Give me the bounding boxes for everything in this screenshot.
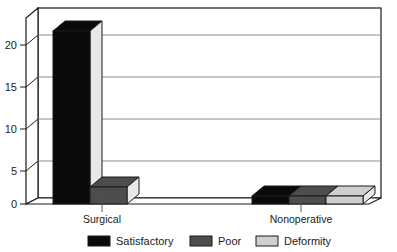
legend-label-poor: Poor <box>218 235 242 247</box>
plot-left-wall <box>26 8 38 204</box>
bar-side-face <box>90 21 102 204</box>
bar-front-face <box>289 196 326 204</box>
bar-surgical-satisfactory <box>53 21 102 204</box>
xtick-label-nonoperative: Nonoperative <box>270 213 333 225</box>
legend-swatch-satisfactory <box>88 236 110 246</box>
ytick-label-20: 20 <box>5 39 17 51</box>
legend-swatch-poor <box>190 236 212 246</box>
chart-legend: Satisfactory Poor Deformity <box>88 235 332 247</box>
legend-swatch-deformity <box>256 236 278 246</box>
ytick-label-10: 10 <box>5 123 17 135</box>
legend-item-deformity[interactable]: Deformity <box>256 235 332 247</box>
legend-label-deformity: Deformity <box>284 235 332 247</box>
ytick-label-15: 15 <box>5 81 17 93</box>
bar-front-face <box>326 196 363 204</box>
bar-front-face <box>53 31 90 204</box>
y-axis-labels: 0 5 10 15 20 <box>5 39 17 210</box>
legend-item-satisfactory[interactable]: Satisfactory <box>88 235 174 247</box>
y-axis-ticks <box>20 45 26 204</box>
legend-item-poor[interactable]: Poor <box>190 235 242 247</box>
chart-canvas: 0 5 10 15 20 <box>0 0 397 252</box>
bar-surgical-poor <box>90 177 139 204</box>
xtick-label-surgical: Surgical <box>83 213 121 225</box>
legend-label-satisfactory: Satisfactory <box>116 235 174 247</box>
bar-chart: 0 5 10 15 20 <box>0 0 397 252</box>
ytick-label-0: 0 <box>11 198 17 210</box>
x-axis-labels: Surgical Nonoperative <box>83 213 332 225</box>
bar-front-face <box>252 196 289 204</box>
bar-front-face <box>90 187 127 204</box>
ytick-label-5: 5 <box>11 165 17 177</box>
